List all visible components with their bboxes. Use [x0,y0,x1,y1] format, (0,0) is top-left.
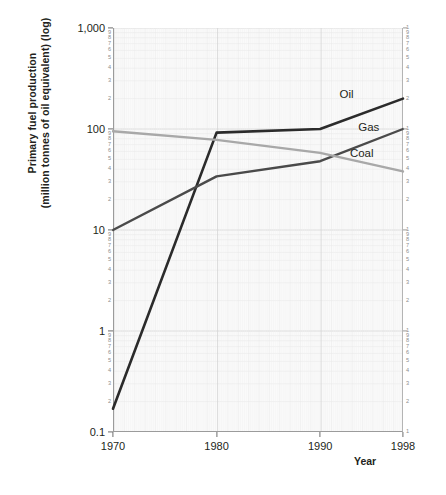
x-tick-mark-2 [320,432,321,437]
y-minor-left: 7 [108,243,111,249]
x-tick-label-2: 1990 [308,440,332,452]
y-minor-right: 5 [406,56,409,62]
y-minor-left: 7 [108,344,111,350]
y-minor-right: 6 [406,351,409,357]
y-minor-right: 5 [406,157,409,163]
y-minor-right: 5 [406,359,409,365]
y-minor-right: 2 [406,96,409,102]
y-minor-right: 3 [406,280,409,286]
y-minor-right: 4 [406,368,409,374]
y-tick-label-3: 1 [99,325,105,337]
series-label-oil: Oil [340,88,354,100]
y-minor-right: 7 [406,344,409,350]
y-minor-left: 2 [108,399,111,405]
x-tick-label-1: 1980 [204,440,228,452]
y-minor-right: 6 [406,250,409,256]
y-minor-left: 6 [108,351,111,357]
y-minor-left: 3 [108,179,111,185]
y-tick-label-1: 100 [87,123,105,135]
y-axis-title: Primary fuel production (million tonnes … [24,18,54,208]
y-axis-title-line2: (million tonnes of oil equivalent) (log) [39,18,52,209]
x-tick-mark-3 [402,432,403,437]
y-axis-title-line1: Primary fuel production [26,53,39,174]
y-tick-label-2: 10 [93,224,105,236]
y-minor-right: 2 [406,298,409,304]
y-minor-left: 5 [108,56,111,62]
y-minor-right: 3 [406,381,409,387]
y-tick-mark-right [403,330,407,331]
y-minor-left: 6 [108,48,111,54]
y-minor-left: 4 [108,267,111,273]
series-label-coal: Coal [350,147,374,159]
y-minor-right: 2 [406,399,409,405]
y-minor-right: 4 [406,267,409,273]
y-minor-left: 4 [108,166,111,172]
y-minor-left: 3 [108,280,111,286]
series-layer [113,28,403,432]
y-tick-label-0: 1,000 [77,22,105,34]
y-minor-left: 7 [108,142,111,148]
y-minor-right: 6 [406,48,409,54]
y-minor-left: 6 [108,149,111,155]
y-minor-right: 3 [406,179,409,185]
x-tick-mark-1 [216,432,217,437]
y-minor-left: 4 [108,65,111,71]
y-minor-left: 2 [108,197,111,203]
y-minor-left: 5 [108,359,111,365]
y-tick-mark-right [403,128,407,129]
y-minor-left: 3 [108,78,111,84]
y-minor-right: 6 [406,149,409,155]
y-minor-left: 5 [108,258,111,264]
y-minor-right: 3 [406,78,409,84]
y-minor-left: 7 [108,41,111,47]
y-minor-right: 7 [406,142,409,148]
x-tick-label-3: 1998 [391,440,415,452]
y-minor-right: 7 [406,41,409,47]
y-minor-right: 4 [406,65,409,71]
y-minor-right: 2 [406,197,409,203]
x-axis-title: Year [354,455,376,467]
y-minor-right: 7 [406,243,409,249]
y-minor-left: 5 [108,157,111,163]
series-label-gas: Gas [358,121,379,133]
y-tick-mark-right [403,27,407,28]
y-minor-left: 4 [108,368,111,374]
y-tick-mark-right [403,229,407,230]
y-minor-right: 1 [406,429,409,435]
y-minor-left: 3 [108,381,111,387]
y-minor-right: 5 [406,258,409,264]
x-tick-mark-0 [112,432,113,437]
y-minor-left: 2 [108,298,111,304]
x-tick-label-0: 1970 [101,440,125,452]
chart-figure: Primary fuel production (million tonnes … [0,0,446,495]
y-tick-label-4: 0.1 [90,426,105,438]
y-minor-right: 4 [406,166,409,172]
y-minor-left: 2 [108,96,111,102]
y-minor-left: 6 [108,250,111,256]
